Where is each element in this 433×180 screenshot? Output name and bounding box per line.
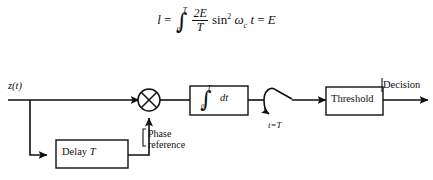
integrator-symbol-group: ∫ T 0 xyxy=(200,89,211,109)
phase-reference-line-1: Phase xyxy=(148,128,185,139)
wire-delay-to-multiplier xyxy=(128,118,149,155)
delay-block-text: Delay xyxy=(62,146,87,157)
block-diagram-figure: l = ∫ T 0 2E T sin2 ωc t = E xyxy=(0,0,433,180)
multiplier-circle xyxy=(138,89,160,111)
delay-block-param: T xyxy=(90,146,96,157)
phase-reference-leader xyxy=(143,129,146,146)
label-threshold-block: Threshold xyxy=(331,93,374,104)
label-delay-block: Delay T xyxy=(62,146,96,157)
integrator-dt: dt xyxy=(220,92,228,103)
label-sampler-time: t=T xyxy=(268,120,282,130)
label-input-signal: z(t) xyxy=(8,80,22,91)
label-integrator-block: ∫ T 0 dt xyxy=(199,89,228,109)
wire-branch-to-delay xyxy=(30,100,47,155)
phase-reference-line-2: reference xyxy=(148,139,185,150)
sampler-switch xyxy=(264,88,292,114)
integrator-lower-limit: 0 xyxy=(201,103,205,112)
integrator-upper-limit: T xyxy=(207,84,211,93)
label-decision-output: Decision xyxy=(383,79,420,90)
label-phase-reference: Phase reference xyxy=(148,128,185,150)
